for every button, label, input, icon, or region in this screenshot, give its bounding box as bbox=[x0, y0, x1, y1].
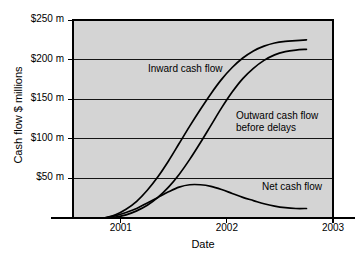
curve-label-3: Net cash flow bbox=[262, 181, 322, 193]
curve-label-0: Inward cash flow bbox=[148, 63, 222, 75]
curve-label-2: before delays bbox=[236, 122, 296, 134]
cash-flow-chart: Cash flow $ millions $50 m$100 m$150 m$2… bbox=[0, 0, 361, 259]
plot-area bbox=[0, 0, 361, 259]
curve-label-1: Outward cash flow bbox=[236, 110, 318, 122]
